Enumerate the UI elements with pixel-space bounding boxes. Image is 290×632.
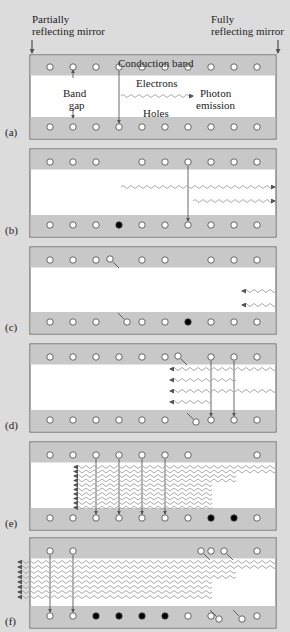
panel-label: (f) bbox=[5, 615, 16, 627]
electron-icon bbox=[162, 515, 168, 521]
electron-icon bbox=[208, 222, 214, 228]
electron-icon bbox=[70, 354, 76, 360]
electron-icon bbox=[93, 64, 99, 70]
electron-icon bbox=[47, 613, 53, 619]
electron-icon bbox=[208, 548, 214, 554]
electron-icon bbox=[208, 354, 214, 360]
electron-icon bbox=[139, 319, 145, 325]
electron-icon bbox=[208, 417, 214, 423]
electron-icon bbox=[70, 613, 76, 619]
electron-icon bbox=[116, 452, 122, 458]
escaping-electron-icon bbox=[107, 256, 113, 262]
electron-icon bbox=[47, 417, 53, 423]
electron-icon bbox=[162, 354, 168, 360]
photon-word: Photon bbox=[196, 87, 235, 99]
escaping-electron-icon bbox=[193, 419, 199, 425]
electron-icon bbox=[231, 319, 237, 325]
electron-icon bbox=[47, 354, 53, 360]
panel-label: (b) bbox=[5, 224, 18, 236]
electron-icon bbox=[70, 452, 76, 458]
electron-icon bbox=[254, 613, 260, 619]
electron-icon bbox=[93, 417, 99, 423]
electron-icon bbox=[70, 64, 76, 70]
electron-icon bbox=[139, 452, 145, 458]
hole-filled-icon bbox=[116, 613, 122, 619]
electron-icon bbox=[47, 548, 53, 554]
electron-icon bbox=[70, 515, 76, 521]
conduction-band bbox=[31, 345, 276, 365]
electron-icon bbox=[231, 257, 237, 263]
electron-icon bbox=[208, 124, 214, 130]
electron-icon bbox=[254, 417, 260, 423]
electron-icon bbox=[162, 124, 168, 130]
electron-icon bbox=[185, 613, 191, 619]
electron-icon bbox=[208, 257, 214, 263]
electron-icon bbox=[70, 417, 76, 423]
electron-icon bbox=[254, 319, 260, 325]
electron-icon bbox=[254, 257, 260, 263]
electron-icon bbox=[93, 257, 99, 263]
electron-icon bbox=[47, 124, 53, 130]
emission-word: emission bbox=[196, 99, 235, 111]
hole-filled-icon bbox=[93, 613, 99, 619]
conduction-band-label: Conduction band bbox=[118, 57, 193, 69]
electron-icon bbox=[162, 159, 168, 165]
electron-icon bbox=[254, 222, 260, 228]
electron-icon bbox=[139, 222, 145, 228]
electron-icon bbox=[162, 319, 168, 325]
electron-icon bbox=[208, 159, 214, 165]
electron-icon bbox=[116, 515, 122, 521]
electron-icon bbox=[47, 64, 53, 70]
valence-band bbox=[31, 117, 276, 139]
electron-icon bbox=[93, 515, 99, 521]
electron-icon bbox=[185, 159, 191, 165]
electron-icon bbox=[162, 417, 168, 423]
diagram-svg bbox=[0, 0, 290, 632]
conduction-band bbox=[31, 539, 276, 559]
electron-icon bbox=[162, 452, 168, 458]
hole-filled-icon bbox=[185, 319, 191, 325]
electron-icon bbox=[70, 548, 76, 554]
electron-icon bbox=[93, 159, 99, 165]
valence-band bbox=[31, 508, 276, 530]
escaping-electron-icon bbox=[239, 616, 245, 622]
electron-icon bbox=[231, 159, 237, 165]
electron-icon bbox=[254, 515, 260, 521]
hole-filled-icon bbox=[231, 515, 237, 521]
electron-icon bbox=[254, 64, 260, 70]
electron-icon bbox=[116, 124, 122, 130]
panel-label: (e) bbox=[5, 517, 17, 529]
hole-filled-icon bbox=[162, 613, 168, 619]
valence-band bbox=[31, 606, 276, 628]
electron-icon bbox=[93, 222, 99, 228]
escaping-electron-icon bbox=[124, 319, 130, 325]
electron-icon bbox=[47, 452, 53, 458]
electron-icon bbox=[208, 64, 214, 70]
electron-icon bbox=[93, 124, 99, 130]
electron-icon bbox=[162, 257, 168, 263]
electron-icon bbox=[231, 417, 237, 423]
electron-icon bbox=[139, 159, 145, 165]
electron-icon bbox=[139, 417, 145, 423]
electron-icon bbox=[93, 452, 99, 458]
hole-filled-icon bbox=[116, 222, 122, 228]
electron-icon bbox=[139, 124, 145, 130]
electron-icon bbox=[162, 222, 168, 228]
electron-icon bbox=[116, 417, 122, 423]
electron-icon bbox=[139, 354, 145, 360]
hole-filled-icon bbox=[139, 613, 145, 619]
electron-icon bbox=[116, 354, 122, 360]
electron-icon bbox=[47, 319, 53, 325]
escaping-electron-icon bbox=[175, 353, 181, 359]
conduction-band bbox=[31, 248, 276, 268]
electron-icon bbox=[47, 515, 53, 521]
electron-icon bbox=[231, 354, 237, 360]
electron-icon bbox=[70, 159, 76, 165]
electrons-label: Electrons bbox=[136, 77, 178, 89]
panel-label: (c) bbox=[5, 321, 17, 333]
electron-icon bbox=[231, 64, 237, 70]
conduction-band bbox=[31, 443, 276, 463]
electron-icon bbox=[254, 452, 260, 458]
electron-icon bbox=[70, 257, 76, 263]
electron-icon bbox=[254, 124, 260, 130]
